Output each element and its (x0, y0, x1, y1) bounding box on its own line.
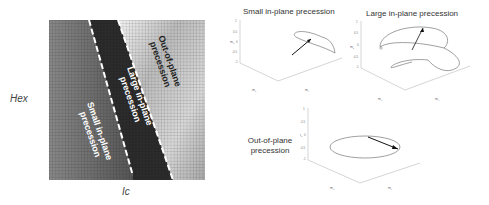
x-axis-label: Ic (122, 186, 130, 197)
svg-text:mx: mx (252, 88, 257, 93)
svg-text:mx: mx (330, 186, 335, 191)
svg-text:1: 1 (303, 107, 305, 111)
plot-title-out-line1: Out-of-plane (242, 136, 298, 146)
svg-text:mx: mx (378, 97, 383, 102)
svg-text:mz: mz (230, 40, 235, 45)
svg-text:mz: mz (300, 133, 303, 138)
svg-text:my: my (388, 186, 393, 191)
svg-text:-0.5: -0.5 (353, 55, 359, 59)
svg-text:0: 0 (304, 133, 306, 137)
svg-text:-1: -1 (303, 157, 306, 161)
plot-large-in-plane: 10.50-0.5-1 mz mx my (350, 18, 489, 103)
svg-text:-1: -1 (356, 65, 359, 69)
plot-title-out: Out-of-plane precession (242, 136, 298, 156)
plot-title-large: Large in-plane precession (366, 9, 458, 18)
svg-text:0.5: 0.5 (301, 120, 306, 124)
svg-text:0: 0 (357, 43, 359, 47)
svg-text:my: my (305, 88, 310, 93)
svg-text:0.5: 0.5 (354, 31, 359, 35)
phase-diagram-heatmap: Small in-plane precession Large in-plane… (49, 20, 205, 180)
svg-text:0.5: 0.5 (233, 30, 238, 34)
svg-text:-0.5: -0.5 (232, 50, 238, 54)
plot-out-of-plane: 10.50-0.5-1 mz mx my (300, 103, 425, 193)
svg-text:1: 1 (235, 19, 237, 23)
svg-text:my: my (435, 97, 440, 102)
plot-small-in-plane: 10.50-0.5-1 mz mx my (230, 15, 350, 100)
svg-text:-1: -1 (235, 60, 238, 64)
svg-text:-0.5: -0.5 (300, 146, 306, 150)
svg-text:0: 0 (236, 40, 238, 44)
plot-title-out-line2: precession (242, 146, 298, 156)
y-axis-label: Hex (10, 93, 28, 104)
svg-text:1: 1 (356, 20, 358, 24)
svg-text:mz: mz (350, 45, 355, 50)
